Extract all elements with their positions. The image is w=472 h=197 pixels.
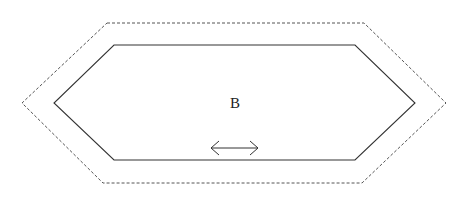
double-arrow-icon xyxy=(211,141,258,155)
diagram-canvas: B xyxy=(0,0,472,197)
region-label: B xyxy=(230,95,240,111)
